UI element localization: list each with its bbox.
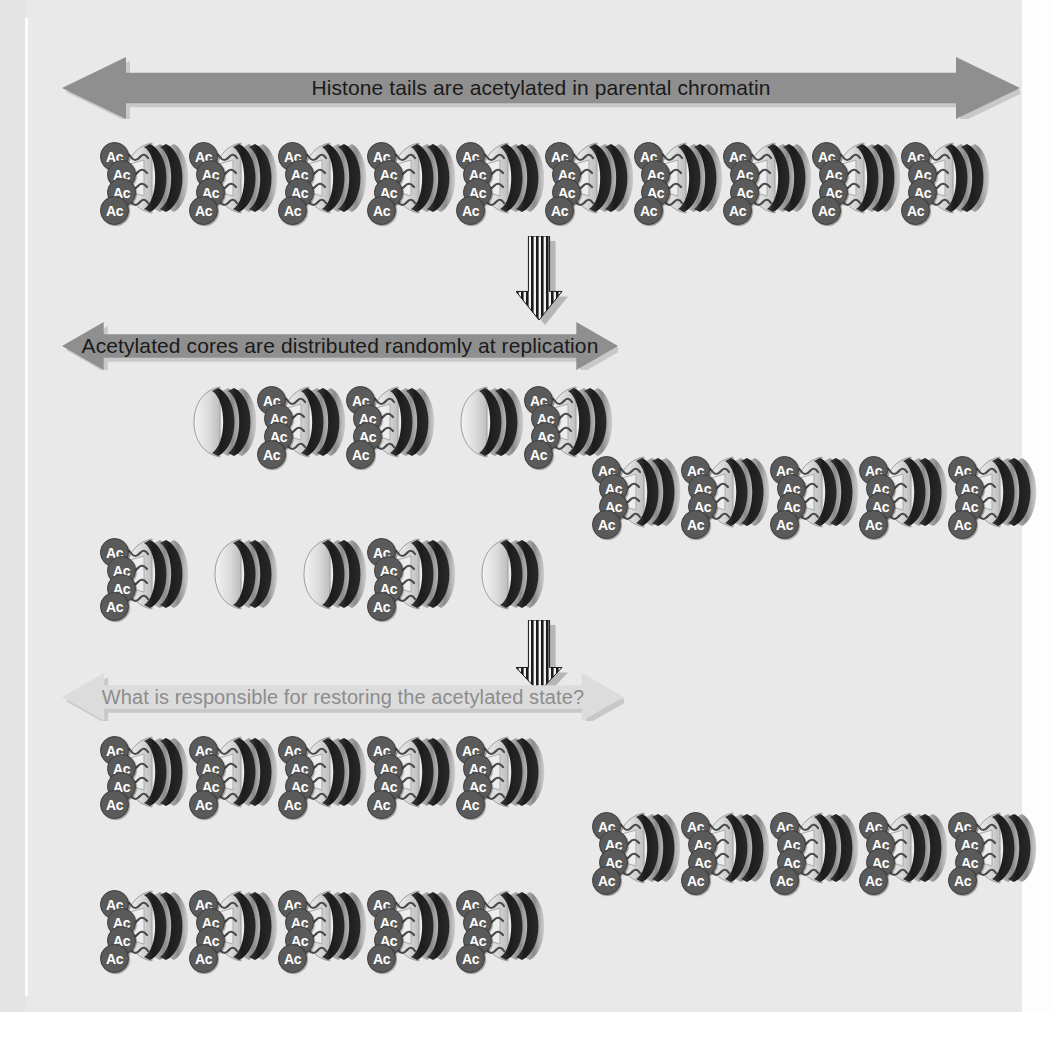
- nucleosome-acetylated: AcAcAcAc: [100, 884, 196, 968]
- nucleosome-acetylated: AcAcAcAc: [456, 730, 552, 814]
- nucleosome-acetylated: AcAcAcAc: [278, 884, 374, 968]
- acetyl-group-cluster: AcAcAcAc: [770, 806, 828, 890]
- row-daughter-a2: AcAcAcAcAcAcAcAcAcAcAcAcAcAcAcAcAcAcAcAc: [592, 450, 1044, 534]
- nucleosome-acetylated: AcAcAcAc: [367, 136, 463, 220]
- acetyl-group-cluster: AcAcAcAc: [948, 450, 1006, 534]
- acetyl-group-cluster: AcAcAcAc: [189, 884, 247, 968]
- acetyl-group-cluster: AcAcAcAc: [257, 380, 315, 464]
- acetyl-group-cluster: AcAcAcAc: [367, 884, 425, 968]
- acetyl-group-cluster: AcAcAcAc: [100, 136, 158, 220]
- histone-acetylation-figure: Histone tails are acetylated in parental…: [0, 0, 1051, 1037]
- nucleosome-unacetylated: [189, 532, 285, 616]
- acetyl-mark-4: Ac: [100, 790, 129, 819]
- row-restored-b1: AcAcAcAcAcAcAcAcAcAcAcAcAcAcAcAcAcAcAcAc: [100, 884, 552, 968]
- acetyl-group-cluster: AcAcAcAc: [592, 450, 650, 534]
- acetyl-group-cluster: AcAcAcAc: [100, 884, 158, 968]
- nucleosome-acetylated: AcAcAcAc: [948, 450, 1044, 534]
- acetyl-mark-4: Ac: [592, 510, 621, 539]
- acetyl-group-cluster: AcAcAcAc: [723, 136, 781, 220]
- nucleosome-acetylated: AcAcAcAc: [100, 136, 196, 220]
- nucleosome-acetylated: AcAcAcAc: [592, 806, 688, 890]
- nucleosome-acetylated: AcAcAcAc: [456, 136, 552, 220]
- nucleosome-acetylated: AcAcAcAc: [189, 884, 285, 968]
- acetyl-group-cluster: AcAcAcAc: [367, 136, 425, 220]
- nucleosome-acetylated: AcAcAcAc: [100, 532, 196, 616]
- acetyl-mark-4: Ac: [100, 196, 129, 225]
- nucleosome-unacetylated: [435, 380, 531, 464]
- nucleosome-unacetylated: [278, 532, 374, 616]
- nucleosome-acetylated: AcAcAcAc: [681, 450, 777, 534]
- row-parental-1: AcAcAcAcAcAcAcAcAcAcAcAcAcAcAcAcAcAcAcAc…: [100, 136, 997, 220]
- bottom-gutter: [0, 1012, 1051, 1037]
- nucleosome-acetylated: AcAcAcAc: [770, 450, 866, 534]
- acetyl-group-cluster: AcAcAcAc: [278, 730, 336, 814]
- acetyl-group-cluster: AcAcAcAc: [456, 136, 514, 220]
- acetyl-group-cluster: AcAcAcAc: [524, 380, 582, 464]
- acetyl-group-cluster: AcAcAcAc: [189, 136, 247, 220]
- nucleosome-acetylated: AcAcAcAc: [812, 136, 908, 220]
- acetyl-mark-4: Ac: [100, 592, 129, 621]
- banner-replication-label: Acetylated cores are distributed randoml…: [82, 334, 599, 358]
- acetyl-group-cluster: AcAcAcAc: [770, 450, 828, 534]
- row-restored-a2: AcAcAcAcAcAcAcAcAcAcAcAcAcAcAcAcAcAcAcAc: [592, 806, 1044, 890]
- nucleosome-acetylated: AcAcAcAc: [367, 730, 463, 814]
- acetyl-mark-4: Ac: [592, 866, 621, 895]
- row-restored-a1: AcAcAcAcAcAcAcAcAcAcAcAcAcAcAcAcAcAcAcAc: [100, 730, 552, 814]
- nucleosome-acetylated: AcAcAcAc: [456, 884, 552, 968]
- acetyl-group-cluster: AcAcAcAc: [456, 884, 514, 968]
- acetyl-group-cluster: AcAcAcAc: [278, 136, 336, 220]
- acetyl-group-cluster: AcAcAcAc: [278, 884, 336, 968]
- down-arrow-replication: [516, 236, 570, 330]
- banner-question-label: What is responsible for restoring the ac…: [102, 686, 584, 709]
- nucleosome-unacetylated: [168, 380, 264, 464]
- nucleosome-acetylated: AcAcAcAc: [257, 380, 353, 464]
- acetyl-group-cluster: AcAcAcAc: [100, 532, 158, 616]
- acetyl-mark-4: Ac: [100, 944, 129, 973]
- acetyl-group-cluster: AcAcAcAc: [367, 532, 425, 616]
- acetyl-group-cluster: AcAcAcAc: [948, 806, 1006, 890]
- nucleosome-acetylated: AcAcAcAc: [545, 136, 641, 220]
- left-margin-strip: [0, 0, 25, 1012]
- acetyl-group-cluster: AcAcAcAc: [634, 136, 692, 220]
- nucleosome-acetylated: AcAcAcAc: [723, 136, 819, 220]
- nucleosome-acetylated: AcAcAcAc: [367, 532, 463, 616]
- nucleosome-acetylated: AcAcAcAc: [901, 136, 997, 220]
- nucleosome-acetylated: AcAcAcAc: [859, 450, 955, 534]
- nucleosome-acetylated: AcAcAcAc: [346, 380, 442, 464]
- acetyl-group-cluster: AcAcAcAc: [189, 730, 247, 814]
- nucleosome-acetylated: AcAcAcAc: [770, 806, 866, 890]
- acetyl-group-cluster: AcAcAcAc: [367, 730, 425, 814]
- acetyl-group-cluster: AcAcAcAc: [681, 450, 739, 534]
- nucleosome-acetylated: AcAcAcAc: [189, 730, 285, 814]
- nucleosome-acetylated: AcAcAcAc: [948, 806, 1044, 890]
- acetyl-group-cluster: AcAcAcAc: [456, 730, 514, 814]
- acetyl-group-cluster: AcAcAcAc: [901, 136, 959, 220]
- nucleosome-acetylated: AcAcAcAc: [592, 450, 688, 534]
- nucleosome-acetylated: AcAcAcAc: [367, 884, 463, 968]
- acetyl-group-cluster: AcAcAcAc: [545, 136, 603, 220]
- acetyl-group-cluster: AcAcAcAc: [859, 806, 917, 890]
- nucleosome-acetylated: AcAcAcAc: [100, 730, 196, 814]
- acetyl-group-cluster: AcAcAcAc: [592, 806, 650, 890]
- nucleosome-acetylated: AcAcAcAc: [278, 136, 374, 220]
- acetyl-group-cluster: AcAcAcAc: [100, 730, 158, 814]
- nucleosome-acetylated: AcAcAcAc: [634, 136, 730, 220]
- nucleosome-unacetylated: [456, 532, 552, 616]
- acetyl-group-cluster: AcAcAcAc: [346, 380, 404, 464]
- nucleosome-acetylated: AcAcAcAc: [681, 806, 777, 890]
- banner-question: What is responsible for restoring the ac…: [62, 673, 624, 721]
- banner-parental: Histone tails are acetylated in parental…: [62, 57, 1020, 119]
- acetyl-group-cluster: AcAcAcAc: [859, 450, 917, 534]
- nucleosome-acetylated: AcAcAcAc: [278, 730, 374, 814]
- nucleosome-acetylated: AcAcAcAc: [189, 136, 285, 220]
- acetyl-group-cluster: AcAcAcAc: [812, 136, 870, 220]
- banner-replication: Acetylated cores are distributed randoml…: [62, 322, 618, 370]
- row-daughter-a1: AcAcAcAcAcAcAcAcAcAcAcAc: [168, 380, 620, 464]
- row-daughter-b1: AcAcAcAcAcAcAcAc: [100, 532, 552, 616]
- banner-parental-label: Histone tails are acetylated in parental…: [311, 76, 770, 100]
- acetyl-group-cluster: AcAcAcAc: [681, 806, 739, 890]
- nucleosome-acetylated: AcAcAcAc: [859, 806, 955, 890]
